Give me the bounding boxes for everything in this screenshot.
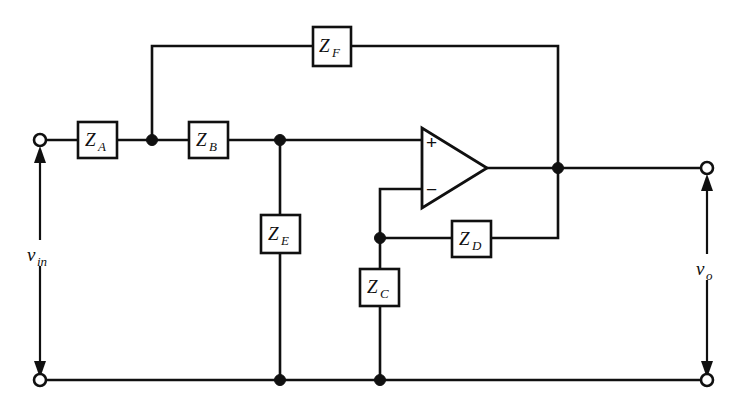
junction-dot-zc-zd [375,233,386,244]
junction-dot-zc-ground [375,375,386,386]
zd-subscript: D [471,238,482,253]
terminal-input-bottom[interactable] [34,374,46,386]
ze-symbol: Z [268,223,279,244]
wire-zd-to-output [491,168,558,238]
terminal-input-top[interactable] [34,134,46,146]
zc-symbol: Z [367,276,378,297]
ze-subscript: E [280,233,289,248]
vin-up-arrowhead [34,146,46,163]
junction-dot-output [553,163,564,174]
vin-symbol: v [27,244,36,265]
vin-subscript: in [37,254,47,269]
impedance-ze[interactable]: Z E [261,215,300,253]
impedance-zc[interactable]: Z C [360,269,399,306]
za-symbol: Z [85,129,96,150]
zc-subscript: C [380,286,389,301]
zb-symbol: Z [196,129,207,150]
junction-dot-za-zb [147,135,158,146]
wire-layer [40,46,707,380]
impedance-zb[interactable]: Z B [189,122,228,158]
impedance-zf[interactable]: Z F [313,27,351,66]
circuit-svg-canvas: + − Z A Z B Z C [0,0,743,408]
terminal-output-top[interactable] [701,162,713,174]
arrowhead-layer [34,146,713,378]
impedance-zd[interactable]: Z D [452,221,491,257]
opamp-symbol: + − [422,128,487,208]
wire-opamp-minus-to-node [380,189,422,238]
wire-zf-left-leg [152,46,313,140]
vo-up-arrowhead [701,174,713,191]
circuit-diagram: + − Z A Z B Z C [0,0,743,408]
zf-subscript: F [331,45,341,60]
junction-dots [147,135,564,386]
terminal-output-bottom[interactable] [701,374,713,386]
zd-symbol: Z [459,228,470,249]
junction-dot-zb-ze [275,135,286,146]
vo-symbol: v [696,258,705,279]
za-subscript: A [97,139,106,154]
impedance-za[interactable]: Z A [78,122,117,158]
terminals [34,134,713,386]
zf-symbol: Z [319,35,330,56]
opamp-plus-sign: + [426,132,437,153]
opamp-minus-sign: − [426,179,437,200]
junction-dot-ze-ground [275,375,286,386]
vo-subscript: o [706,268,713,283]
zb-subscript: B [209,139,217,154]
